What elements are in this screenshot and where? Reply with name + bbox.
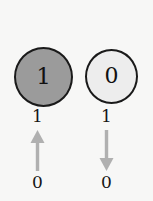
state-node-on: 1 — [14, 47, 73, 107]
transition-falling: 1 0 — [69, 108, 145, 192]
transition-falling-top-label: 1 — [101, 108, 112, 126]
transition-rising-top-label: 1 — [32, 108, 43, 126]
state-node-off: 0 — [85, 49, 138, 104]
arrow-down-icon — [99, 130, 115, 171]
arrow-up-icon — [30, 130, 46, 171]
transition-falling-bottom-label: 0 — [101, 174, 112, 192]
state-node-on-label: 1 — [36, 65, 51, 88]
state-transition-diagram: 1 1 0 0 1 0 — [0, 0, 153, 201]
state-column-rising: 1 1 0 — [0, 0, 76, 201]
state-node-off-label: 0 — [105, 65, 119, 87]
transition-rising-bottom-label: 0 — [32, 174, 43, 192]
transition-rising: 1 0 — [0, 108, 76, 192]
state-column-falling: 0 1 0 — [72, 0, 148, 201]
